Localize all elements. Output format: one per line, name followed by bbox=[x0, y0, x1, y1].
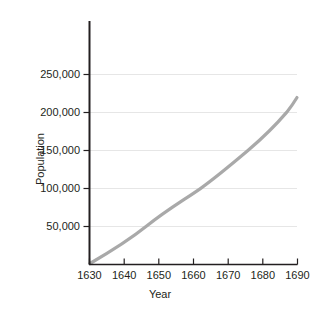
chart-figure: 250,000 200,000 150,000 100,000 50,000 1… bbox=[0, 0, 322, 316]
data-line bbox=[90, 98, 297, 264]
y-axis-title: Population bbox=[34, 133, 46, 185]
xtick-label-1690: 1690 bbox=[278, 269, 318, 281]
axis-spines bbox=[89, 21, 298, 265]
ytick-label-50000: 50,000 bbox=[20, 220, 80, 232]
ytick-label-100000: 100,000 bbox=[20, 182, 80, 194]
x-axis-title: Year bbox=[149, 288, 171, 300]
ytick-label-250000: 250,000 bbox=[20, 68, 80, 80]
x-axis-ticks bbox=[90, 259, 298, 265]
ytick-label-150000: 150,000 bbox=[20, 144, 80, 156]
gridlines bbox=[90, 75, 297, 227]
ytick-label-200000: 200,000 bbox=[20, 106, 80, 118]
